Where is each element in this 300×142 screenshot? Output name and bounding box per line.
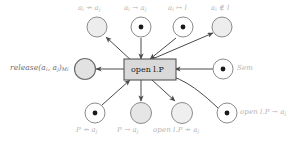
petri-net-diagram: open l.P ai ↛ aj ai → aj ai ↦ l ai ∉ l r…: [0, 0, 300, 142]
token-ai-mapsto-l: [181, 25, 186, 30]
label-ai-mapsto-l: ai ↦ l: [168, 5, 187, 12]
arc-P-nmaps-aj-to-transition: [102, 80, 130, 105]
token-sem: [221, 67, 226, 72]
label-P-to-aj: P → aj: [117, 127, 138, 134]
place-P-to-aj[interactable]: [131, 103, 152, 124]
token-P-nmaps-aj: [93, 111, 98, 116]
transition-label: open l.P: [131, 66, 164, 74]
place-ai-nmaps-aj[interactable]: [87, 17, 107, 37]
arc-transition-to-openlP-nmaps-aj: [152, 80, 175, 101]
place-release[interactable]: [75, 59, 96, 80]
label-P-nmaps-aj: P ↛ aj: [76, 127, 97, 134]
label-sem: Sem: [237, 65, 253, 72]
label-openlP-nmaps-aj: open l.P ↛ aj: [153, 127, 199, 134]
label-ai-notin-l: ai ∉ l: [211, 5, 229, 12]
label-ai-nmaps-aj: ai ↛ aj: [78, 5, 101, 12]
place-ai-notin-l[interactable]: [212, 17, 232, 37]
token-ai-to-aj: [139, 25, 144, 30]
label-ai-to-aj: ai → aj: [124, 5, 147, 12]
arc-ai-mapsto-l-to-transition: [150, 38, 176, 59]
label-openlP-to-aj: open l.P → aj: [240, 109, 286, 116]
label-release: release(ai, aj)Mi: [10, 64, 69, 72]
token-openlP-to-aj: [225, 111, 230, 116]
arc-transition-to-ai-nmaps-aj: [106, 37, 133, 62]
place-openlP-nmaps-aj[interactable]: [172, 103, 193, 124]
